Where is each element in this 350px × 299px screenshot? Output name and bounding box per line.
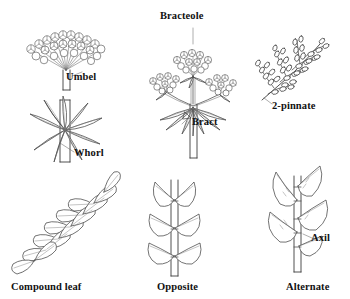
label-alternate: Alternate — [286, 281, 329, 292]
compound-leaflets — [12, 172, 121, 274]
alternate-figure — [268, 166, 327, 272]
opposite-figure — [148, 180, 201, 276]
label-whorl: Whorl — [74, 147, 104, 158]
umbel-florets — [27, 31, 105, 65]
opposite-leaves — [148, 182, 201, 264]
two-pinnate-figure — [255, 35, 330, 104]
botany-illustration — [0, 0, 350, 299]
label-umbel: Umbel — [66, 71, 96, 82]
compound-leaf-figure — [12, 172, 121, 274]
label-bracteole: Bracteole — [160, 10, 203, 21]
compound-umbel-figure — [150, 28, 237, 158]
umbellet-left — [150, 73, 180, 94]
two-pinnate-leader — [264, 98, 272, 104]
pinnae-leaflets — [255, 35, 330, 95]
label-2-pinnate: 2-pinnate — [272, 100, 316, 111]
label-compound-leaf: Compound leaf — [11, 281, 81, 292]
label-opposite: Opposite — [157, 281, 198, 292]
label-axil: Axil — [311, 232, 330, 243]
diagram-canvas: Umbel Whorl Compound leaf Bracteole Brac… — [0, 0, 350, 299]
label-bract: Bract — [192, 116, 218, 127]
